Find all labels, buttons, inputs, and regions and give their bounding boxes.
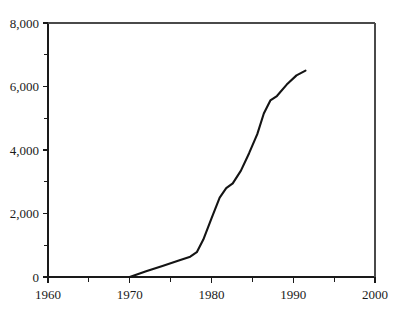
plot-frame: [48, 23, 375, 277]
y-tick-label-4: 8,000: [10, 16, 39, 31]
data-series-group: [130, 71, 306, 277]
x-tick-label-4: 2000: [362, 287, 388, 302]
y-tick-label-3: 6,000: [10, 79, 39, 94]
y-axis-tick-labels: 02,0004,0006,0008,000: [10, 16, 39, 285]
data-series-line-0: [130, 71, 306, 277]
y-tick-label-0: 0: [33, 270, 40, 285]
y-tick-label-1: 2,000: [10, 206, 39, 221]
x-tick-label-2: 1980: [199, 287, 225, 302]
x-axis-tick-labels: 19601970198019902000: [35, 287, 388, 302]
x-tick-label-0: 1960: [35, 287, 61, 302]
x-tick-label-3: 1990: [280, 287, 306, 302]
y-tick-label-2: 4,000: [10, 143, 39, 158]
chart-container: 02,0004,0006,0008,000 196019701980199020…: [0, 0, 420, 313]
x-tick-label-1: 1970: [117, 287, 143, 302]
line-chart: 02,0004,0006,0008,000 196019701980199020…: [0, 0, 420, 313]
axis-ticks: [43, 23, 375, 283]
